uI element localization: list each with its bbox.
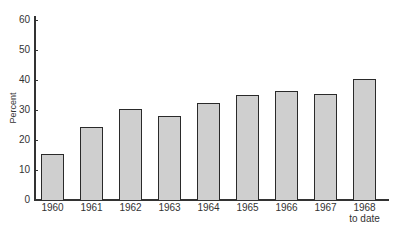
x-tick-label: 1964 (189, 203, 229, 213)
x-tick-label-year: 1962 (119, 202, 141, 213)
y-axis-line (34, 16, 36, 201)
x-tick-label-year: 1960 (41, 202, 63, 213)
bar-1960 (41, 154, 64, 201)
bar-1964 (197, 103, 220, 201)
x-tick-label: 1967 (306, 203, 346, 213)
y-tick-label: 60 (4, 15, 30, 25)
x-tick-label-year: 1965 (236, 202, 258, 213)
y-tick-label: 50 (4, 45, 30, 55)
y-tick-label: 30 (4, 105, 30, 115)
bar-chart: Percent 0102030405060 196019611962196319… (0, 0, 393, 227)
x-tick-label: 1966 (267, 203, 307, 213)
x-tick-label-year: 1967 (314, 202, 336, 213)
bar-1968 (353, 79, 376, 201)
x-tick-label-year: 1963 (158, 202, 180, 213)
y-tick (34, 110, 38, 111)
bar-1961 (80, 127, 103, 201)
y-tick-label: 40 (4, 75, 30, 85)
bar-1966 (275, 91, 298, 201)
x-tick-label: 1960 (33, 203, 73, 213)
y-tick-label: 20 (4, 135, 30, 145)
x-tick-label: 1963 (150, 203, 190, 213)
y-tick-label: 0 (4, 195, 30, 205)
y-tick (34, 50, 38, 51)
x-tick-label-note: to date (345, 214, 385, 224)
y-tick (34, 80, 38, 81)
x-tick-label: 1962 (111, 203, 151, 213)
bar-1963 (158, 116, 181, 200)
x-tick-label-year: 1968 (353, 202, 375, 213)
x-tick-label-year: 1961 (80, 202, 102, 213)
x-tick-label: 1968to date (345, 203, 385, 224)
x-tick-label: 1961 (72, 203, 112, 213)
y-tick-label: 10 (4, 165, 30, 175)
y-tick (34, 170, 38, 171)
x-tick-label-year: 1966 (275, 202, 297, 213)
x-tick-label: 1965 (228, 203, 268, 213)
bar-1967 (314, 94, 337, 201)
x-tick-label-year: 1964 (197, 202, 219, 213)
bar-1965 (236, 95, 259, 200)
bar-1962 (119, 109, 142, 201)
y-tick (34, 200, 38, 201)
y-tick (34, 20, 38, 21)
y-tick (34, 140, 38, 141)
